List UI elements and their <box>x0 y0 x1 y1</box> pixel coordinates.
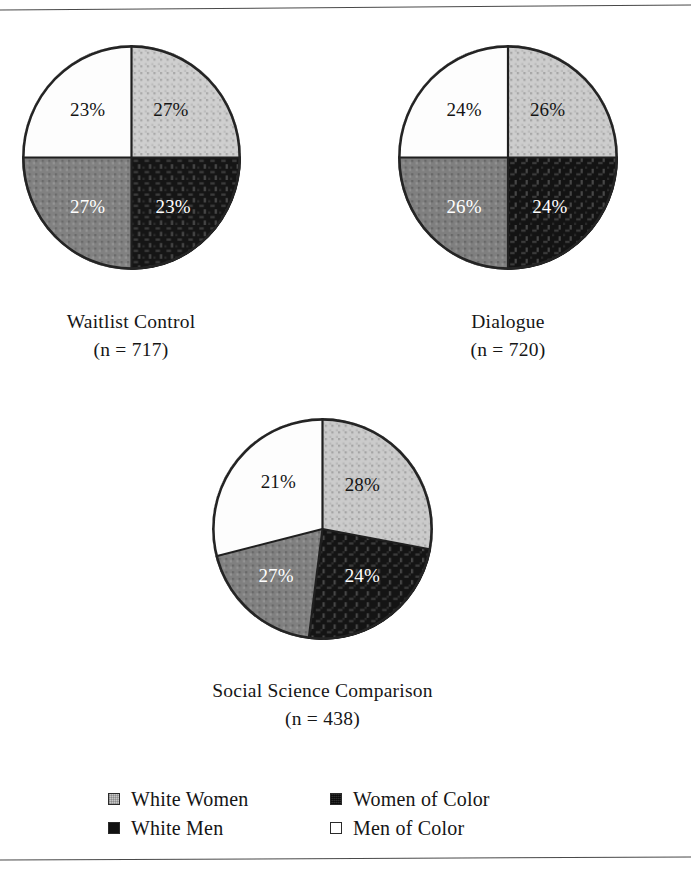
pie-slices-social-science-comparison <box>212 418 433 640</box>
legend-column-right: Women of Color Men of Color <box>330 784 490 842</box>
legend-item-white-women[interactable]: White Women <box>108 784 248 813</box>
legend-swatch-women-of-color-icon <box>330 793 342 805</box>
legend-swatch-men-of-color-icon <box>330 822 342 834</box>
pie-figure-social-science-comparison: 28% 24% 27% 21% Social Science Compariso… <box>190 374 500 754</box>
pie-figure-dialogue: 26% 24% 26% 24% Dialogue (n = 720) <box>380 0 680 380</box>
pie-sample-size: (n = 717) <box>0 336 262 364</box>
bottom-rule <box>0 853 691 865</box>
legend-column-left: White Women White Men <box>108 784 248 842</box>
pie-title: Social Science Comparison <box>185 677 460 705</box>
pie-sample-size: (n = 438) <box>185 705 460 733</box>
pie-chart-social-science-comparison[interactable]: 28% 24% 27% 21% <box>212 418 433 640</box>
pie-caption-waitlist-control: Waitlist Control (n = 717) <box>0 308 262 363</box>
pie-chart-dialogue[interactable]: 26% 24% 26% 24% <box>398 45 618 270</box>
legend-swatch-white-men-icon <box>108 822 120 834</box>
pie-title: Waitlist Control <box>0 308 262 336</box>
pie-caption-social-science-comparison: Social Science Comparison (n = 438) <box>185 677 460 732</box>
pie-title: Dialogue <box>380 308 636 336</box>
pie-figure-waitlist-control: 27% 23% 27% 23% Waitlist Control (n = 71… <box>0 0 280 380</box>
legend-swatch-white-women-icon <box>108 793 120 805</box>
pie-sample-size: (n = 720) <box>380 336 636 364</box>
pie-slices-dialogue <box>398 45 618 270</box>
legend-item-white-men[interactable]: White Men <box>108 813 248 842</box>
legend-item-men-of-color[interactable]: Men of Color <box>330 813 490 842</box>
legend-label-white-women: White Women <box>131 789 248 809</box>
pie-slices-waitlist-control <box>22 45 241 270</box>
legend-item-women-of-color[interactable]: Women of Color <box>330 784 490 813</box>
pie-chart-waitlist-control[interactable]: 27% 23% 27% 23% <box>22 45 241 270</box>
legend-label-women-of-color: Women of Color <box>353 789 490 809</box>
legend-label-white-men: White Men <box>131 818 223 838</box>
pie-caption-dialogue: Dialogue (n = 720) <box>380 308 636 363</box>
legend-label-men-of-color: Men of Color <box>353 818 464 838</box>
